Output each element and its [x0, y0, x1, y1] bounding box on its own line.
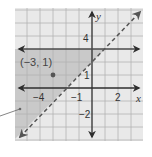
y-tick-label: −2 [79, 109, 91, 120]
y-tick-label: 1 [84, 70, 90, 81]
y-axis-label: y [95, 10, 101, 22]
annotation-pointer-dot [19, 108, 22, 111]
x-tick-label: −4 [33, 92, 45, 103]
y-tick-label: 4 [83, 33, 89, 44]
x-axis-label: x [135, 92, 141, 104]
plotted-point [51, 73, 56, 78]
inequality-graph: x y −4 −1 2 4 1 −2 (−3, 1) [0, 0, 152, 157]
x-tick-label: 2 [115, 92, 121, 103]
x-tick-label: −1 [71, 92, 83, 103]
point-label: (−3, 1) [20, 56, 52, 68]
